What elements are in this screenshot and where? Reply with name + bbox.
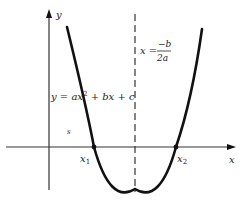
svg-text:−b: −b: [158, 39, 172, 49]
root-x2-label: x2: [177, 153, 187, 166]
root-x1-point: [92, 145, 97, 150]
svg-text:2a: 2a: [156, 53, 168, 63]
x-axis-arrow-icon: [227, 144, 236, 150]
root-x2-point: [174, 145, 179, 150]
root-x1-label: x1: [80, 153, 90, 166]
x-axis: [6, 144, 236, 150]
y-axis-label: y: [55, 9, 62, 20]
stray-mark: s: [67, 128, 71, 136]
svg-text:x =: x =: [140, 45, 157, 56]
symmetry-formula: x = −b 2a: [140, 39, 172, 63]
y-axis-arrow-icon: [46, 9, 52, 18]
parabola-diagram: y x x1 x2 y = ax2 + bx + c x = −b 2a s: [0, 0, 240, 210]
equation-label: y = ax2 + bx + c: [50, 90, 135, 102]
x-axis-label: x: [229, 154, 235, 165]
